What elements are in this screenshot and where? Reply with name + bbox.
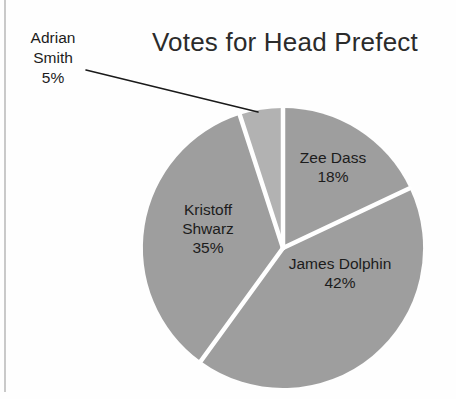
pie-chart: Votes for Head Prefect Zee Dass 18% [0,0,456,399]
slice-label-james-dolphin-value: 42% [272,273,408,292]
slice-label-kristoff-shwarz-value: 35% [156,238,260,257]
slice-label-james-dolphin: James Dolphin 42% [272,254,408,292]
slice-label-kristoff-shwarz-name-line1: Kristoff [156,200,260,219]
slice-label-adrian-smith-value: 5% [14,68,92,88]
slice-label-zee-dass-value: 18% [283,167,383,186]
slice-label-kristoff-shwarz: Kristoff Shwarz 35% [156,200,260,257]
slice-label-adrian-smith-name-line1: Adrian [14,28,92,48]
slice-label-adrian-smith: Adrian Smith 5% [14,28,92,88]
slice-label-james-dolphin-name: James Dolphin [272,254,408,273]
slice-label-kristoff-shwarz-name-line2: Shwarz [156,219,260,238]
slice-label-zee-dass-name: Zee Dass [283,148,383,167]
slice-label-zee-dass: Zee Dass 18% [283,148,383,186]
leader-line-adrian-smith [86,70,258,112]
slice-label-adrian-smith-name-line2: Smith [14,48,92,68]
